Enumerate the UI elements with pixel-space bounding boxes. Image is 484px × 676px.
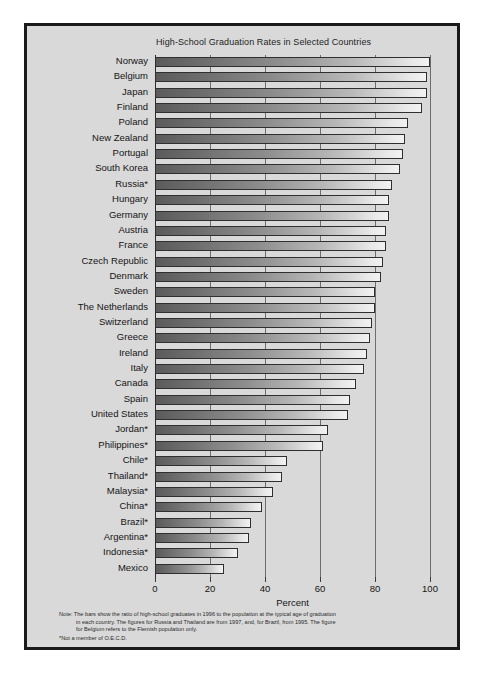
category-label: Argentina* [104,530,148,544]
bar-row: China* [155,500,430,515]
footnote-line-2: in each country. The figures for Russia … [59,619,437,627]
bar-row: South Korea [155,162,430,177]
chart-figure: High-School Graduation Rates in Selected… [24,23,460,650]
category-label: New Zealand [92,131,148,145]
bar-row: Malaysia* [155,485,430,500]
x-tick-label: 80 [370,583,381,594]
bar [155,118,408,128]
bar [155,441,323,451]
category-label: Hungary [112,192,148,206]
category-label: Portugal [113,146,148,160]
bar-row: Denmark [155,270,430,285]
bar [155,180,392,190]
bar [155,134,405,144]
bar-row: Austria [155,224,430,239]
bar-row: Italy [155,362,430,377]
bar-row: Hungary [155,193,430,208]
bar [155,472,282,482]
bar-row: Philippines* [155,439,430,454]
category-label: Jordan* [115,422,148,436]
bar [155,241,386,251]
category-label: France [118,238,148,252]
bar-row: Portugal [155,147,430,162]
bar-row: Canada [155,377,430,392]
bar [155,103,422,113]
footnote-oecd-note: *Not a member of O.E.C.D. [59,635,437,643]
x-tick [375,577,376,582]
bar [155,349,367,359]
category-label: Mexico [118,561,148,575]
bar [155,257,383,267]
bar-row: Mexico [155,562,430,577]
chart-title: High-School Graduation Rates in Selected… [156,37,371,47]
category-label: Austria [118,223,148,237]
gridline-100 [430,55,431,577]
x-tick-label: 60 [315,583,326,594]
category-label: Thailand* [108,469,148,483]
bar-row: Czech Republic [155,255,430,270]
category-label: Canada [115,376,148,390]
category-label: Italy [131,361,148,375]
x-tick-label: 40 [260,583,271,594]
category-label: Denmark [109,269,148,283]
bar [155,195,389,205]
x-tick [155,577,156,582]
bar-row: Poland [155,116,430,131]
category-label: United States [91,407,148,421]
category-label: Poland [118,115,148,129]
bar [155,164,400,174]
bar-row: Sweden [155,285,430,300]
category-label: Ireland [119,346,148,360]
bar-row: United States [155,408,430,423]
category-label: Chile* [123,453,148,467]
bar-row: France [155,239,430,254]
category-label: Finland [117,100,148,114]
bar-row: Japan [155,86,430,101]
x-tick-label: 20 [205,583,216,594]
bar [155,318,372,328]
bar-row: Greece [155,331,430,346]
bar-row: Ireland [155,347,430,362]
footnote-line-3: for Belgium refers to the Flemish popula… [59,626,437,634]
bar-row: Russia* [155,178,430,193]
bar-row: Spain [155,393,430,408]
bar-row: Indonesia* [155,546,430,561]
bar-row: Thailand* [155,470,430,485]
x-tick-label: 0 [152,583,157,594]
bar-row: Finland [155,101,430,116]
category-label: Russia* [115,177,148,191]
bar [155,425,328,435]
x-tick-label: 100 [422,583,438,594]
bar [155,395,350,405]
bar [155,379,356,389]
bar-row: Jordan* [155,423,430,438]
bar [155,211,389,221]
category-label: Czech Republic [81,254,148,268]
bar [155,88,427,98]
bar [155,226,386,236]
category-label: Spain [124,392,148,406]
category-label: Philippines* [98,438,148,452]
footnote-line-1: Note: The bars show the ratio of high-sc… [59,611,437,619]
bar-row: The Netherlands [155,301,430,316]
bar-row: Argentina* [155,531,430,546]
category-label: South Korea [95,161,148,175]
category-label: Japan [122,85,148,99]
bar [155,57,430,67]
bar [155,303,375,313]
x-axis-title: Percent [155,597,430,608]
bar [155,333,370,343]
bar [155,548,238,558]
category-label: Malaysia* [107,484,148,498]
bar-row: Belgium [155,70,430,85]
bar [155,564,224,574]
bar [155,487,273,497]
bar-row: Chile* [155,454,430,469]
bar [155,72,427,82]
category-label: Sweden [114,284,148,298]
bar [155,410,348,420]
category-label: Greece [117,330,148,344]
category-label: Switzerland [99,315,148,329]
x-tick [265,577,266,582]
bar [155,456,287,466]
